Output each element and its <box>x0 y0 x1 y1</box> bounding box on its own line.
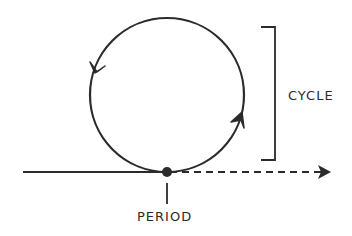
cycle-period-diagram <box>0 0 352 236</box>
cycle-circle <box>90 18 244 172</box>
cycle-label: CYCLE <box>288 88 334 103</box>
period-label: PERIOD <box>137 209 192 224</box>
period-point <box>162 167 172 177</box>
cycle-bracket <box>261 27 275 160</box>
